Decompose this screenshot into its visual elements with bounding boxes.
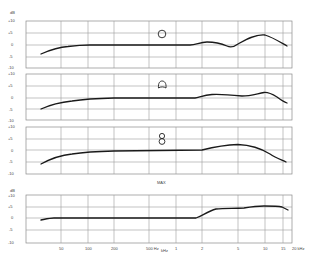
y-tick: 0 (11, 148, 14, 153)
x-tick: 10 (263, 246, 268, 251)
y-tick: +10 (8, 71, 16, 76)
y-unit-label: dB (10, 10, 15, 15)
y-tick: +5 (8, 136, 13, 141)
panel-figure-8: +10 +5 0 -5 -10 MAX (8, 124, 292, 185)
y-tick: 0 (11, 215, 14, 220)
x-tick: 50 (59, 246, 64, 251)
frequency-response-charts: dB +10 +5 0 -5 -10 +10 +5 0 -5 -10 (0, 0, 312, 263)
y-tick: -5 (9, 107, 13, 112)
x-tick: 2 (201, 246, 204, 251)
response-curve (41, 92, 287, 109)
panel-presence: dB +10 +5 0 -5 -10 50 100 200 500 Hz kHz… (8, 188, 304, 253)
omni-pattern-icon (158, 30, 166, 38)
y-tick: -5 (9, 159, 13, 164)
response-curve (41, 145, 286, 165)
y-tick: +10 (8, 18, 16, 23)
y-tick: -10 (8, 171, 15, 176)
y-tick: +10 (8, 193, 16, 198)
x-tick: 20 kHz (292, 246, 304, 251)
x-tick: 100 (85, 246, 92, 251)
y-tick: -10 (8, 240, 15, 245)
y-tick: -10 (8, 65, 15, 70)
y-tick: -5 (9, 54, 13, 59)
y-tick: +5 (8, 30, 13, 35)
y-tick: -10 (8, 118, 15, 123)
x-tick: 200 (111, 246, 118, 251)
y-tick: -5 (9, 227, 13, 232)
y-tick: +10 (8, 124, 16, 129)
y-tick: 0 (11, 95, 14, 100)
y-tick: +5 (8, 204, 13, 209)
wide-cardioid-pattern-icon (158, 81, 166, 88)
figure-8-pattern-icon (159, 133, 165, 144)
x-tick: 5 (237, 246, 240, 251)
response-curve (41, 35, 287, 54)
x-unit-mid: kHz (161, 248, 168, 253)
x-tick: 1 (175, 246, 178, 251)
x-tick: 15 (281, 246, 286, 251)
x-tick: 500 Hz (146, 246, 159, 251)
max-label: MAX (157, 180, 166, 185)
panel-wide-cardioid: +10 +5 0 -5 -10 (8, 71, 292, 123)
y-tick: 0 (11, 42, 14, 47)
panel-omni: dB +10 +5 0 -5 -10 (8, 10, 292, 70)
y-tick: +5 (8, 83, 13, 88)
